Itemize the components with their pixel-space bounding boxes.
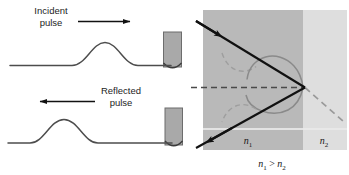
reflected-label-line2: pulse <box>110 97 133 108</box>
reflected-string-pulse <box>8 120 172 144</box>
reflected-label-line1: Reflected <box>101 85 141 96</box>
incident-label-line1: Incident <box>34 5 68 16</box>
post-body <box>165 108 183 145</box>
incident-pulse-diagram: Incident pulse <box>10 5 182 68</box>
relation-operator: > <box>267 158 278 169</box>
physics-figure: Incident pulse Reflected pulse <box>0 0 349 175</box>
incident-label-line2: pulse <box>40 17 63 28</box>
reflected-pulse-diagram: Reflected pulse <box>8 85 183 146</box>
relation-right-subscript: 2 <box>282 164 286 172</box>
refraction-panel: n1 n2 n1 > n2 <box>191 10 347 172</box>
incident-wall-post <box>164 32 182 68</box>
post-body <box>164 32 182 67</box>
index-relation-caption: n1 > n2 <box>258 158 286 172</box>
medium-2-subscript: 2 <box>325 141 329 149</box>
incident-string-pulse <box>10 43 171 66</box>
reflected-wall-post <box>165 108 183 146</box>
slab-bottom-highlight <box>203 128 347 130</box>
figure-canvas: Incident pulse Reflected pulse <box>0 0 349 175</box>
medium-1-subscript: 1 <box>249 141 253 149</box>
